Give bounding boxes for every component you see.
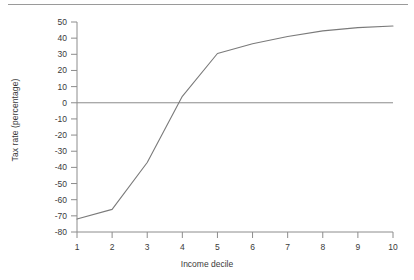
- y-tick-label: -60: [55, 195, 68, 205]
- x-tick-label: 2: [110, 242, 115, 252]
- chart-figure: Tax rate (percentage) 50403020100-10-20-…: [0, 0, 414, 280]
- x-tick-label: 3: [145, 242, 150, 252]
- y-tick-label: -10: [55, 114, 68, 124]
- x-tick-label: 10: [388, 242, 398, 252]
- y-tick-label: 0: [62, 98, 67, 108]
- y-tick-label: 10: [58, 82, 68, 92]
- y-tick-label: -30: [55, 146, 68, 156]
- y-axis-ticks: 50403020100-10-20-30-40-50-60-70-80: [55, 17, 77, 237]
- x-tick-label: 9: [356, 242, 361, 252]
- y-tick-label: -50: [55, 179, 68, 189]
- y-tick-label: 20: [58, 65, 68, 75]
- x-tick-label: 7: [285, 242, 290, 252]
- y-tick-label: -40: [55, 162, 68, 172]
- tax-rate-line: [77, 26, 393, 219]
- x-axis-title: Income decile: [0, 259, 414, 269]
- x-tick-label: 4: [180, 242, 185, 252]
- y-tick-label: 30: [58, 49, 68, 59]
- x-tick-label: 5: [215, 242, 220, 252]
- x-tick-label: 1: [75, 242, 80, 252]
- x-tick-label: 8: [320, 242, 325, 252]
- y-tick-label: -80: [55, 227, 68, 237]
- x-axis-ticks: 12345678910: [75, 232, 398, 252]
- chart-canvas: 50403020100-10-20-30-40-50-60-70-80 1234…: [0, 0, 414, 280]
- y-tick-label: 50: [58, 17, 68, 27]
- y-tick-label: 40: [58, 33, 68, 43]
- x-tick-label: 6: [250, 242, 255, 252]
- y-tick-label: -20: [55, 130, 68, 140]
- y-tick-label: -70: [55, 211, 68, 221]
